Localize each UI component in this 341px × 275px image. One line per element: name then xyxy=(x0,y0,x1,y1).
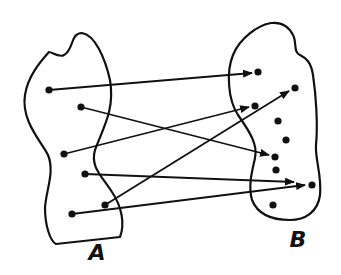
set-b-point xyxy=(271,153,278,160)
mapping-arrow xyxy=(81,107,269,155)
set-b-point xyxy=(274,117,281,124)
arrows-layer xyxy=(49,73,305,214)
points-layer xyxy=(45,68,315,217)
set-a-point xyxy=(68,210,75,217)
set-b-label: B xyxy=(290,227,307,252)
set-b-point xyxy=(269,201,276,208)
set-mapping-diagram: AB xyxy=(0,0,341,275)
set-a-point xyxy=(81,170,88,177)
set-a-point xyxy=(77,103,84,110)
mapping-arrow xyxy=(85,174,294,182)
set-b-point xyxy=(251,102,258,109)
set-a-label: A xyxy=(86,240,105,265)
mapping-arrow xyxy=(49,73,252,90)
mapping-arrow xyxy=(72,185,305,214)
set-b-point xyxy=(291,84,298,91)
set-b-point xyxy=(272,166,279,173)
set-b-point xyxy=(308,181,315,188)
set-a-point xyxy=(60,150,67,157)
set-b-point xyxy=(254,68,261,75)
set-a-point xyxy=(101,201,108,208)
mapping-arrow xyxy=(105,91,289,205)
mapping-arrow xyxy=(64,107,249,154)
sets-layer xyxy=(24,23,320,244)
set-b-point xyxy=(282,136,289,143)
set-a-point xyxy=(45,86,52,93)
labels-layer: AB xyxy=(86,227,306,265)
